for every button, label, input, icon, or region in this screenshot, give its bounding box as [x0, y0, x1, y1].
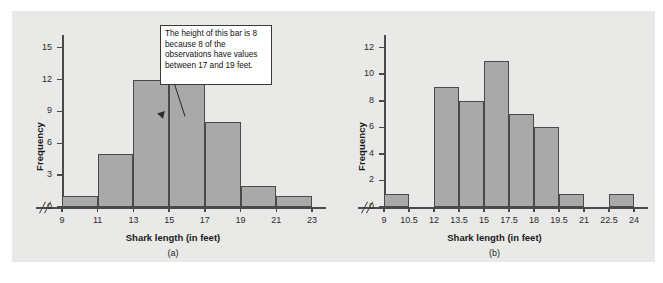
histogram-bar [133, 80, 169, 208]
x-axis-tick-label: 11 [83, 215, 113, 225]
x-axis-label-a: Shark length (in feet) [12, 232, 334, 243]
y-axis-tick [57, 111, 62, 113]
x-axis-break-icon [40, 202, 54, 214]
y-axis-tick-label: 3 [26, 169, 52, 179]
x-axis-tick [508, 207, 510, 212]
x-axis-tick [61, 207, 63, 212]
y-axis-tick-label: 6 [348, 121, 374, 131]
x-axis-tick [408, 207, 410, 212]
x-axis-tick-label: 21 [261, 215, 291, 225]
y-axis-tick-label: 12 [26, 74, 52, 84]
x-axis-tick [133, 207, 135, 212]
histogram-bar [62, 196, 98, 207]
y-axis-tick [379, 180, 384, 182]
y-axis-tick [379, 47, 384, 49]
x-axis-label-b: Shark length (in feet) [334, 232, 655, 243]
x-axis-tick [433, 207, 435, 212]
histogram-b: Frequency 024681012910.51213.51517.51819… [334, 11, 655, 262]
x-axis-tick [383, 207, 385, 212]
x-axis-tick [204, 207, 206, 212]
y-axis-tick [57, 143, 62, 145]
y-axis-line [384, 35, 386, 207]
histogram-a: Frequency 03691215911131517192123 Shark … [12, 11, 334, 262]
x-axis-tick-label: 23 [297, 215, 327, 225]
histogram-bar [241, 186, 277, 207]
histogram-bar [434, 87, 459, 207]
histogram-bar [205, 122, 241, 207]
y-axis-tick [379, 100, 384, 102]
x-axis-tick [558, 207, 560, 212]
y-axis-tick [379, 153, 384, 155]
figure-panel: Frequency 03691215911131517192123 Shark … [12, 11, 655, 262]
x-axis-tick [168, 207, 170, 212]
x-axis-tick [311, 207, 313, 212]
y-axis-tick [379, 73, 384, 75]
histogram-bar [384, 194, 409, 207]
annotation-callout-a: The height of this bar is 8 because 8 of… [160, 25, 272, 85]
x-axis-tick-label: 24 [619, 215, 649, 225]
x-axis-tick [633, 207, 635, 212]
histogram-bar [459, 101, 484, 207]
x-axis-tick [240, 207, 242, 212]
y-axis-tick [379, 127, 384, 129]
x-axis-tick [533, 207, 535, 212]
y-axis-tick-label: 2 [348, 174, 374, 184]
figure-container: Frequency 03691215911131517192123 Shark … [0, 0, 663, 283]
x-axis-tick-label: 19 [226, 215, 256, 225]
x-axis-line [36, 207, 326, 209]
histogram-bar [484, 61, 509, 207]
x-axis-tick [276, 207, 278, 212]
x-axis-tick [458, 207, 460, 212]
x-axis-tick-label: 17 [190, 215, 220, 225]
histogram-bar [534, 127, 559, 207]
y-axis-tick-label: 10 [348, 68, 374, 78]
histogram-bar [98, 154, 134, 207]
caption-a: (a) [12, 248, 334, 258]
y-axis-tick-label: 8 [348, 95, 374, 105]
x-axis-tick [608, 207, 610, 212]
y-axis-tick-label: 4 [348, 148, 374, 158]
x-axis-line [358, 207, 648, 209]
y-axis-tick-label: 15 [26, 42, 52, 52]
y-axis-tick [57, 47, 62, 49]
histogram-bar [559, 194, 584, 207]
y-axis-tick-label: 6 [26, 137, 52, 147]
y-axis-tick-label: 9 [26, 105, 52, 115]
x-axis-tick [97, 207, 99, 212]
x-axis-tick [483, 207, 485, 212]
histogram-bar [276, 196, 312, 207]
histogram-bar [509, 114, 534, 207]
x-axis-tick-label: 9 [47, 215, 77, 225]
y-axis-tick-label: 12 [348, 42, 374, 52]
histogram-bar [609, 194, 634, 207]
x-axis-tick-label: 13 [118, 215, 148, 225]
x-axis-tick [583, 207, 585, 212]
plot-area-b: 024681012910.51213.51517.51819.52122.524 [384, 37, 634, 207]
x-axis-break-icon [362, 202, 376, 214]
y-axis-line [62, 35, 64, 207]
y-axis-tick [57, 174, 62, 176]
x-axis-tick-label: 15 [154, 215, 184, 225]
caption-b: (b) [334, 248, 655, 258]
y-axis-tick [57, 79, 62, 81]
